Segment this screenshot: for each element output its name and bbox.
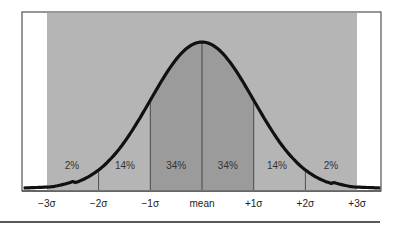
- x-tick-label: +2σ: [297, 198, 315, 209]
- x-tick-label: −3σ: [38, 198, 56, 209]
- normal-distribution-chart: 2%14%34%34%14%2% −3σ−2σ−1σmean+1σ+2σ+3σ: [0, 0, 403, 227]
- x-tick-label: +1σ: [245, 198, 263, 209]
- x-tick-label: −1σ: [142, 198, 160, 209]
- x-tick-label: mean: [189, 198, 214, 209]
- x-tick-label: +3σ: [348, 198, 366, 209]
- band-percent-label: 14%: [267, 160, 287, 171]
- x-axis-tick-labels: −3σ−2σ−1σmean+1σ+2σ+3σ: [38, 198, 367, 209]
- band-percent-label: 34%: [166, 160, 186, 171]
- band-percent-label: 2%: [324, 160, 339, 171]
- band-percent-label: 2%: [65, 160, 80, 171]
- band-percent-label: 34%: [218, 160, 238, 171]
- x-tick-label: −2σ: [90, 198, 108, 209]
- band-percent-label: 14%: [115, 160, 135, 171]
